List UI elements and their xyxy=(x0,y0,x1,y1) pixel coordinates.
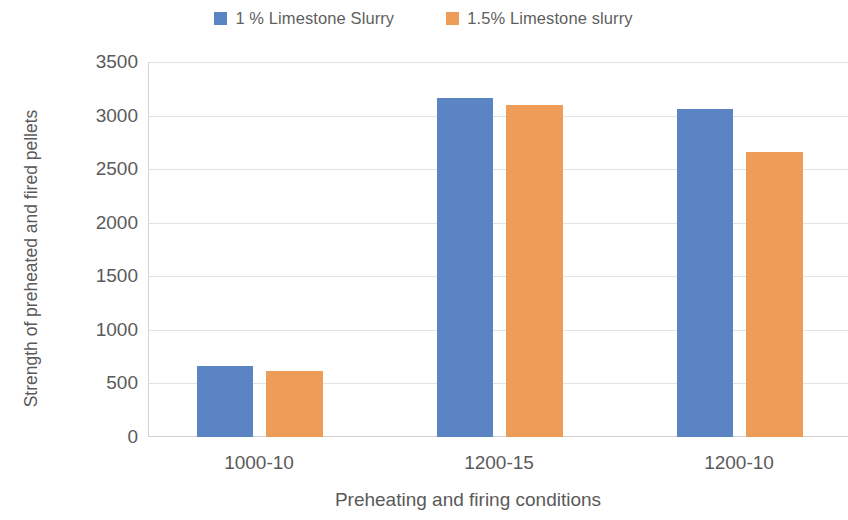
bar-series2-category2[interactable] xyxy=(506,105,563,437)
y-tick-label: 0 xyxy=(18,426,148,448)
x-tick-label-category-1: 1000-10 xyxy=(224,452,294,474)
legend-label-series-1: 1 % Limestone Slurry xyxy=(235,9,394,28)
y-tick-label: 3000 xyxy=(18,105,148,127)
bar-series1-category1[interactable] xyxy=(197,366,253,437)
x-tick-label-category-2: 1200-15 xyxy=(464,452,534,474)
plot-area xyxy=(148,62,847,437)
gridline-3000 xyxy=(149,116,848,117)
y-tick-label: 1000 xyxy=(18,319,148,341)
y-tick-label: 2500 xyxy=(18,158,148,180)
legend-swatch-icon xyxy=(214,12,227,25)
y-axis-tick-labels: 3500 3000 2500 2000 1500 1000 500 0 xyxy=(0,0,148,520)
x-tick-label-category-3: 1200-10 xyxy=(704,452,774,474)
gridline-3500 xyxy=(149,62,848,63)
legend-label-series-2: 1.5% Limestone slurry xyxy=(467,9,632,28)
bar-series1-category3[interactable] xyxy=(677,109,733,437)
legend-item-series-2: 1.5% Limestone slurry xyxy=(446,9,632,28)
gridline-500 xyxy=(149,383,848,384)
y-tick-label: 1500 xyxy=(18,265,148,287)
x-axis-title: Preheating and firing conditions xyxy=(148,489,788,511)
gridline-1000 xyxy=(149,330,848,331)
gridline-2500 xyxy=(149,169,848,170)
legend-item-series-1: 1 % Limestone Slurry xyxy=(214,9,394,28)
bar-series2-category3[interactable] xyxy=(746,152,803,437)
y-tick-label: 3500 xyxy=(18,51,148,73)
gridline-zero-baseline xyxy=(149,436,848,437)
y-tick-label: 500 xyxy=(18,372,148,394)
legend-swatch-icon xyxy=(446,12,459,25)
gridline-1500 xyxy=(149,276,848,277)
y-tick-label: 2000 xyxy=(18,212,148,234)
bar-series2-category1[interactable] xyxy=(266,371,323,437)
bar-series1-category2[interactable] xyxy=(437,98,493,437)
gridline-2000 xyxy=(149,223,848,224)
